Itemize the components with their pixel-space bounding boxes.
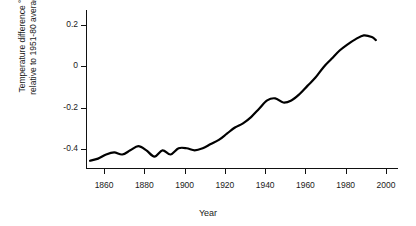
y-tick-label-0.2: 0.2 — [52, 20, 78, 29]
y-tick-label-0: 0 — [52, 61, 78, 70]
x-tick-label-1940: 1940 — [245, 181, 285, 190]
x-tick-label-1900: 1900 — [165, 181, 205, 190]
x-tick-1900 — [185, 169, 186, 174]
y-tick--0.2 — [81, 108, 86, 109]
x-tick-1860 — [104, 169, 105, 174]
temperature-line — [90, 35, 376, 160]
x-axis-label: Year — [0, 208, 416, 218]
x-tick-1960 — [305, 169, 306, 174]
temperature-anomaly-chart: 18601880190019201940196019802000 0.20-0.… — [0, 0, 416, 226]
y-axis-label: Temperature difference °C relative to 19… — [17, 0, 39, 123]
x-tick-label-2000: 2000 — [366, 181, 406, 190]
y-tick-0 — [81, 66, 86, 67]
x-tick-label-1980: 1980 — [326, 181, 366, 190]
x-tick-label-1960: 1960 — [285, 181, 325, 190]
y-axis-label-line1: Temperature difference °C — [17, 0, 28, 123]
x-tick-1940 — [265, 169, 266, 174]
x-tick-label-1860: 1860 — [84, 181, 124, 190]
plot-area — [0, 0, 416, 226]
y-tick-label--0.4: -0.4 — [52, 144, 78, 153]
x-tick-2000 — [386, 169, 387, 174]
y-tick-label--0.2: -0.2 — [52, 103, 78, 112]
x-tick-1920 — [225, 169, 226, 174]
y-tick-0.2 — [81, 25, 86, 26]
y-axis-label-line2: relative to 1951-80 average — [28, 0, 39, 123]
x-tick-label-1880: 1880 — [124, 181, 164, 190]
x-tick-label-1920: 1920 — [205, 181, 245, 190]
y-tick--0.4 — [81, 149, 86, 150]
x-tick-1980 — [346, 169, 347, 174]
x-tick-1880 — [144, 169, 145, 174]
